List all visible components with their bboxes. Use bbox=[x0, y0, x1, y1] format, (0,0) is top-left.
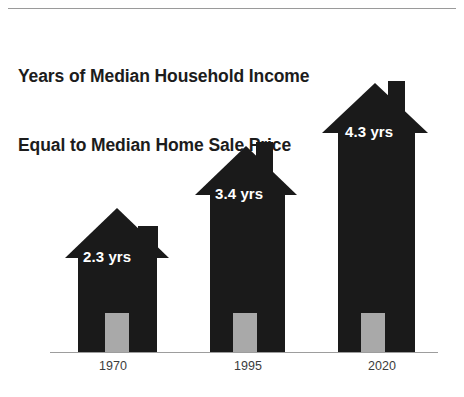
x-axis-line bbox=[50, 352, 438, 353]
house-door-2020 bbox=[361, 313, 385, 352]
value-label-1995: 3.4 yrs bbox=[215, 185, 263, 202]
chart-plot-area: 2.3 yrs 3.4 yrs 4.3 yrs 1970 1995 2020 bbox=[0, 0, 464, 397]
infographic-chart: Years of Median Household Income Equal t… bbox=[0, 0, 464, 397]
x-axis-tick-label-2020: 2020 bbox=[342, 359, 422, 373]
house-door-1995 bbox=[233, 313, 257, 352]
house-chimney-1970 bbox=[138, 226, 158, 258]
value-label-2020: 4.3 yrs bbox=[345, 123, 393, 140]
value-label-1970: 2.3 yrs bbox=[83, 248, 131, 265]
x-axis-tick-label-1995: 1995 bbox=[208, 359, 288, 373]
x-axis-tick-label-1970: 1970 bbox=[73, 359, 153, 373]
house-door-1970 bbox=[105, 313, 129, 352]
